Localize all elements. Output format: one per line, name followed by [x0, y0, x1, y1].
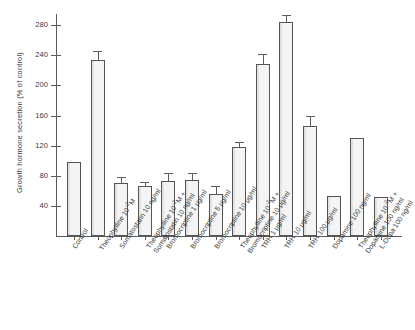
- y-axis-line: [56, 14, 57, 237]
- error-bar-cap: [188, 173, 197, 174]
- error-bar: [286, 16, 287, 22]
- error-bar: [168, 174, 169, 181]
- error-bar-cap: [164, 173, 173, 174]
- error-bar-cap: [211, 186, 220, 187]
- y-tick-200: 200: [51, 85, 61, 86]
- error-bar: [121, 178, 122, 183]
- y-tick-label: 280: [35, 20, 48, 29]
- y-tick-80: 80: [51, 176, 61, 177]
- bar-shade: [92, 61, 94, 235]
- bar-control: [67, 162, 81, 237]
- error-bar: [263, 55, 264, 65]
- y-tick-40: 40: [51, 206, 61, 207]
- error-bar: [192, 174, 193, 181]
- error-bar-cap: [235, 142, 244, 143]
- y-tick-240: 240: [51, 55, 61, 56]
- error-bar-cap: [140, 182, 149, 183]
- error-bar: [310, 117, 311, 126]
- y-tick-120: 120: [51, 146, 61, 147]
- y-tick-280: 280: [51, 25, 61, 26]
- plot-area: 2802402001601208040 ControlTheophylline …: [56, 14, 402, 236]
- bar-shade: [68, 163, 70, 236]
- error-bar-cap: [117, 177, 126, 178]
- error-bar-cap: [282, 15, 291, 16]
- bar-theophylline: [91, 60, 105, 236]
- y-tick-label: 80: [40, 171, 48, 180]
- y-tick-label: 40: [40, 201, 48, 210]
- error-bar-cap: [93, 51, 102, 52]
- y-tick-label: 160: [35, 111, 48, 120]
- error-bar: [145, 183, 146, 186]
- exponent: -2: [382, 199, 390, 206]
- y-tick-160: 160: [51, 116, 61, 117]
- error-bar: [239, 143, 240, 147]
- exponent: -2: [122, 201, 130, 208]
- error-bar: [216, 187, 217, 194]
- error-bar-cap: [306, 116, 315, 117]
- error-bar: [98, 52, 99, 60]
- y-tick-label: 240: [35, 50, 48, 59]
- exponent: -2: [170, 199, 178, 206]
- error-bar-cap: [258, 54, 267, 55]
- y-tick-label: 200: [35, 80, 48, 89]
- exponent: -2: [264, 199, 272, 206]
- y-axis-title: Growth hormone secretion (% of control): [15, 18, 24, 228]
- y-tick-label: 120: [35, 141, 48, 150]
